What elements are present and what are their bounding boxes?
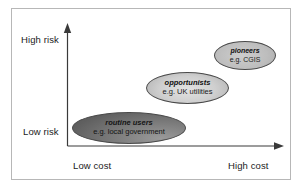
bubble-opportunists-subtitle: e.g. UK utilities [162, 88, 212, 97]
x-axis [68, 142, 285, 149]
bubble-pioneers: pioneers e.g. CGIS [214, 41, 276, 70]
figure-root: High risk Low risk Low cost High cost ro… [0, 0, 302, 189]
bubble-pioneers-title: pioneers [230, 47, 259, 55]
bubble-pioneers-subtitle: e.g. CGIS [230, 56, 261, 64]
axis-label-low-cost: Low cost [73, 160, 111, 171]
bubble-routine-users: routine users e.g. local government [72, 112, 186, 144]
y-axis [64, 23, 71, 146]
axis-label-low-risk: Low risk [23, 126, 59, 137]
x-axis-arrowhead [274, 142, 284, 149]
axis-label-high-cost: High cost [228, 160, 269, 171]
y-axis-arrowhead [64, 23, 71, 33]
axis-label-high-risk: High risk [21, 34, 59, 45]
bubble-routine-users-subtitle: e.g. local government [93, 128, 165, 137]
bubble-opportunists: opportunists e.g. UK utilities [146, 72, 229, 104]
